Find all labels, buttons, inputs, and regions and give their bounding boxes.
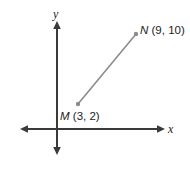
x-axis-arrow-right-icon — [157, 125, 165, 133]
y-axis-arrow-up-icon — [53, 21, 61, 29]
point-n-coords: (9, 10) — [152, 24, 185, 36]
point-n-label: N (9, 10) — [140, 24, 185, 36]
segment-mn-line — [78, 34, 136, 104]
x-axis — [20, 125, 165, 133]
figure-canvas: y x M (3, 2) N (9, 10) — [0, 0, 190, 170]
point-m-label: M (3, 2) — [60, 110, 100, 122]
y-axis — [53, 21, 61, 155]
x-axis-label: x — [167, 122, 174, 136]
point-m-marker — [76, 102, 80, 106]
coordinate-plane-figure: y x M (3, 2) N (9, 10) — [0, 0, 190, 170]
point-m-coords: (3, 2) — [73, 110, 100, 122]
segment-mn — [76, 32, 138, 106]
point-n-marker — [134, 32, 138, 36]
x-axis-arrow-left-icon — [20, 125, 28, 133]
y-axis-label: y — [52, 7, 59, 21]
y-axis-arrow-down-icon — [53, 147, 61, 155]
point-m-name: M — [60, 110, 70, 122]
